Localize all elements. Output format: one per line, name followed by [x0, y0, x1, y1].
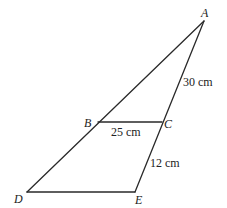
vertex-label-E: E: [134, 193, 143, 207]
measurement-AC: 30 cm: [183, 75, 213, 89]
vertex-label-D: D: [13, 192, 23, 206]
measurement-BC: 25 cm: [111, 125, 141, 139]
measurement-CE: 12 cm: [150, 156, 180, 170]
vertex-label-C: C: [164, 117, 173, 131]
vertex-label-A: A: [200, 6, 209, 20]
vertex-label-B: B: [84, 116, 92, 130]
triangle-diagram: A B C D E 30 cm 25 cm 12 cm: [0, 0, 227, 208]
